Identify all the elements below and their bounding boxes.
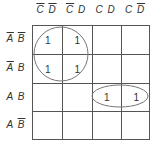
grouping-loops xyxy=(0,0,156,147)
group-ellipse-pair xyxy=(92,85,148,107)
group-circle-quad xyxy=(34,27,88,81)
